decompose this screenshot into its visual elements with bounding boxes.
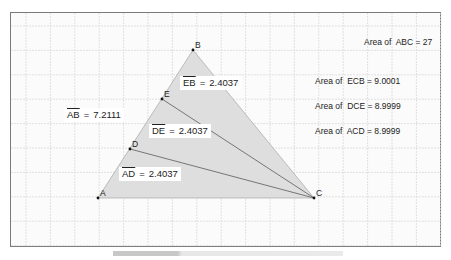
segment-length: 7.2111 bbox=[93, 109, 121, 120]
segment-name: EB bbox=[183, 77, 196, 88]
measurement-eb: EB=2.4037 bbox=[180, 76, 241, 90]
vertex-label-c: C bbox=[316, 189, 322, 198]
equals-sign: = bbox=[200, 77, 206, 88]
segment-name: AD bbox=[122, 168, 135, 179]
measurement-ab: AB=7.2111 bbox=[64, 108, 124, 122]
equals-sign: = bbox=[169, 125, 175, 136]
area-label-dce: Area of DCE = 8.9999 bbox=[315, 102, 401, 111]
area-label-acd: Area of ACD = 8.9999 bbox=[315, 127, 400, 136]
vertex-label-e: E bbox=[164, 90, 170, 99]
point-d bbox=[129, 148, 132, 151]
point-b bbox=[192, 49, 195, 52]
area-label-ecb: Area of ECB = 9.0001 bbox=[315, 77, 400, 86]
equals-sign: = bbox=[139, 168, 145, 179]
segment-name: DE bbox=[152, 125, 165, 136]
segment-name: AB bbox=[67, 109, 80, 120]
measurement-de: DE=2.4037 bbox=[149, 124, 211, 138]
segment-length: 2.4037 bbox=[209, 77, 238, 88]
measurement-ad: AD=2.4037 bbox=[119, 167, 181, 181]
diagram-canvas: ABCDEAB=7.2111EB=2.4037DE=2.4037AD=2.403… bbox=[0, 0, 451, 260]
point-a bbox=[97, 197, 100, 200]
vertex-label-b: B bbox=[195, 41, 201, 50]
point-c bbox=[313, 197, 316, 200]
equals-sign: = bbox=[84, 109, 90, 120]
figure-caption-illegible bbox=[113, 251, 343, 256]
segment-length: 2.4037 bbox=[179, 125, 208, 136]
vertex-label-d: D bbox=[132, 140, 138, 149]
vertex-label-a: A bbox=[100, 189, 106, 198]
point-e bbox=[161, 98, 164, 101]
area-label-abc: Area of ABC = 27 bbox=[364, 38, 432, 47]
segment-length: 2.4037 bbox=[149, 168, 178, 179]
